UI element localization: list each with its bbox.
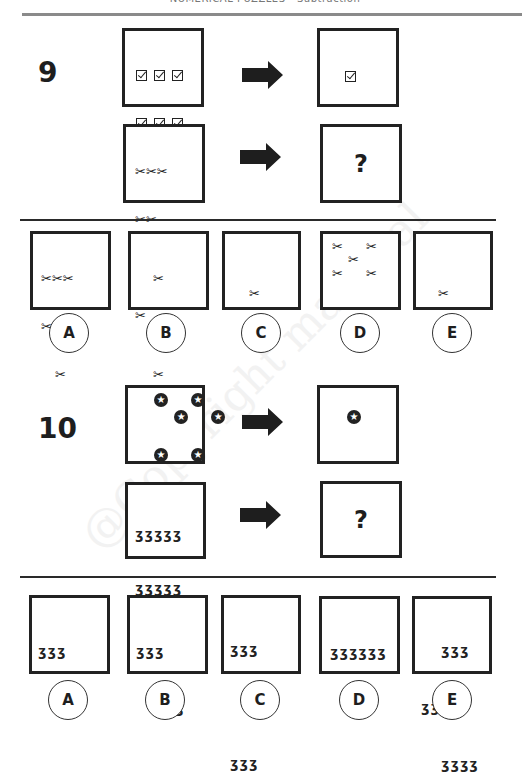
scissors-group: ✂ ✂ ✂ ✂ ✂ [332, 239, 392, 299]
hook-icon: ʒ [145, 643, 154, 659]
checkbox-icon [172, 70, 183, 81]
q9-example-left-box [122, 28, 204, 107]
q10-option-c-label[interactable]: C [240, 680, 280, 720]
checkbox-icon [345, 71, 356, 82]
q10-option-e-box[interactable]: ʒʒʒ ʒʒʒ ʒʒʒʒ [412, 596, 492, 674]
q10-option-a-label[interactable]: A [48, 680, 88, 720]
option-letter: E [447, 691, 457, 709]
star-circle-icon [154, 393, 168, 407]
q9-option-e-box[interactable]: ✂ ✂ [413, 231, 493, 310]
right-arrow-icon [242, 408, 284, 436]
hook-icon: ʒ [173, 580, 182, 596]
scissors-icon: ✂ [135, 308, 146, 323]
q10-answer-box: ? [320, 481, 402, 558]
q9-option-b-box[interactable]: ✂ ✂ ✂ [128, 231, 209, 310]
option-letter: D [354, 324, 366, 342]
option-letter: E [447, 324, 457, 342]
hook-icon: ʒ [144, 526, 153, 542]
q9-option-c-label[interactable]: C [241, 313, 281, 353]
q10-option-d-box[interactable]: ʒʒʒʒʒʒ [319, 596, 400, 674]
star-circle-icon [174, 410, 188, 424]
right-arrow-icon [240, 501, 282, 529]
q9-option-a-box[interactable]: ✂✂✂ ✂✂ ✂ [30, 231, 111, 310]
star-group [128, 388, 202, 461]
scissors-icon: ✂ [332, 239, 343, 255]
hook-icon: ʒ [368, 644, 377, 660]
checkbox-icon [154, 70, 165, 81]
star-circle-icon [191, 393, 205, 407]
hook-icon: ʒ [349, 644, 358, 660]
scissors-icon: ✂ [153, 271, 164, 286]
scissors-icon: ✂ [157, 164, 168, 179]
q10-option-c-box[interactable]: ʒʒʒ ʒʒ ʒʒʒ [221, 595, 301, 674]
scissors-icon: ✂ [55, 367, 66, 382]
q9-example-right-box [317, 28, 399, 107]
option-letter: B [159, 691, 170, 709]
option-letter: A [63, 324, 75, 342]
q9-option-d-box[interactable]: ✂ ✂ ✂ ✂ ✂ [320, 231, 401, 310]
q9-option-e-label[interactable]: E [432, 313, 472, 353]
question-number-9: 9 [38, 56, 57, 89]
option-letter: B [160, 324, 171, 342]
scissors-icon: ✂ [366, 239, 377, 255]
scissors-icon: ✂ [249, 286, 260, 301]
hook-icon: ʒ [249, 641, 258, 657]
q9-answer-box: ? [320, 124, 402, 203]
q9-option-a-label[interactable]: A [49, 313, 89, 353]
q10-option-d-label[interactable]: D [339, 680, 379, 720]
scissors-icon: ✂ [52, 271, 63, 286]
scissors-icon: ✂ [348, 252, 359, 268]
hook-icon: ʒ [469, 756, 478, 772]
scissors-icon: ✂ [146, 164, 157, 179]
hook-icon: ʒ [163, 526, 172, 542]
q9-option-b-label[interactable]: B [146, 313, 186, 353]
q9-option-c-box[interactable]: ✂ [222, 231, 301, 310]
header-rule [22, 13, 522, 16]
hook-icon: ʒ [377, 644, 386, 660]
hook-icon: ʒ [239, 755, 248, 771]
scissors-icon: ✂ [135, 164, 146, 179]
right-arrow-icon [240, 143, 282, 171]
hook-icon: ʒ [173, 526, 182, 542]
option-letter: C [254, 691, 265, 709]
question-number-10: 10 [38, 412, 77, 445]
hook-icon: ʒ [144, 580, 153, 596]
hook-icon: ʒ [57, 643, 66, 659]
scissors-icon: ✂ [63, 271, 74, 286]
hook-icon: ʒ [47, 643, 56, 659]
right-arrow-icon [242, 61, 284, 89]
question-mark: ? [354, 506, 368, 534]
hook-icon: ʒ [249, 755, 258, 771]
star-circle-icon [211, 410, 225, 424]
q9-puzzle-left-box: ✂✂✂ ✂✂ ✂ ✂ [123, 124, 205, 203]
scissors-icon: ✂ [153, 367, 164, 382]
hook-icon: ʒ [154, 526, 163, 542]
scissors-icon: ✂ [332, 266, 343, 282]
q10-example-right-box [317, 385, 399, 464]
question-mark: ? [354, 150, 368, 178]
hook-icon: ʒ [339, 644, 348, 660]
star-circle-icon [191, 448, 205, 462]
option-letter: A [62, 691, 74, 709]
hook-icon: ʒ [460, 756, 469, 772]
q10-option-e-label[interactable]: E [432, 680, 472, 720]
hook-icon: ʒ [450, 756, 459, 772]
star-circle-icon [154, 448, 168, 462]
section-divider [20, 576, 496, 578]
scissors-icon: ✂ [366, 266, 377, 282]
star-circle-icon [347, 410, 361, 424]
q10-puzzle-left-box: ʒʒʒʒʒ ʒʒʒʒʒ ʒʒʒʒʒ [125, 482, 206, 559]
q10-option-b-label[interactable]: B [145, 680, 185, 720]
page-header-title: NUMERICAL PUZZLES - Subtraction [0, 0, 530, 4]
q9-option-d-label[interactable]: D [340, 313, 380, 353]
hook-icon: ʒ [239, 641, 248, 657]
q10-option-a-box[interactable]: ʒʒʒ ʒʒ [29, 595, 110, 674]
scissors-icon: ✂ [438, 286, 449, 301]
hook-icon: ʒ [450, 642, 459, 658]
hook-icon: ʒ [154, 580, 163, 596]
option-letter: D [353, 691, 365, 709]
scissors-icon: ✂ [41, 271, 52, 286]
hook-icon: ʒ [163, 580, 172, 596]
q10-option-b-box[interactable]: ʒʒʒ ʒʒʒ [127, 595, 208, 674]
section-divider [20, 219, 496, 221]
